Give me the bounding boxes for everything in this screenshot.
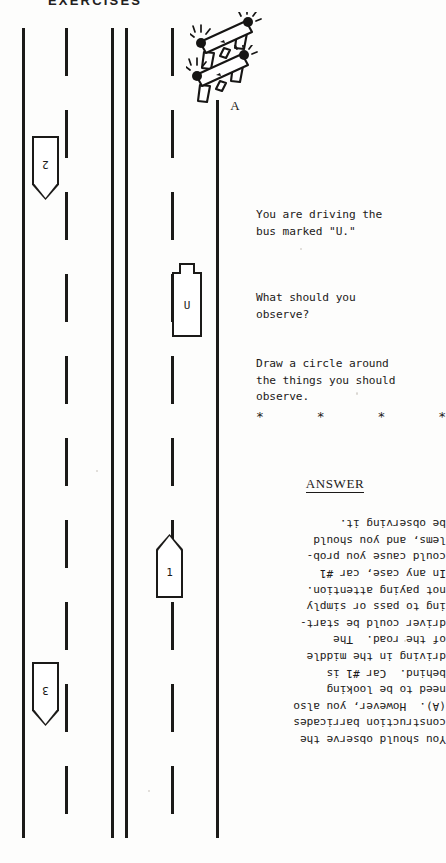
answer-heading-text: ANSWER (306, 476, 365, 493)
separator-star: * (317, 409, 325, 424)
separator-star: * (256, 409, 264, 424)
question-prompt: What should you observe? (256, 290, 356, 323)
barricade-icon (186, 45, 258, 107)
scan-speck (148, 790, 150, 792)
vehicle-label-1: 1 (156, 566, 183, 579)
scan-speck (404, 640, 406, 642)
center-line-left (111, 28, 114, 838)
scan-speck (356, 392, 358, 395)
workbook-page: EXERCISES (0, 0, 446, 863)
vehicle-label-u: U (172, 299, 202, 312)
star-separator: * * * * (256, 409, 446, 424)
vehicle-car-1: 1 (156, 534, 183, 598)
vehicle-car-2: 2 (32, 136, 59, 200)
vehicle-label-2: 2 (32, 158, 59, 171)
bus-hood-joint (181, 271, 193, 275)
barricade-label-a: A (226, 98, 244, 114)
scan-speck (96, 470, 98, 472)
lane-divider-2 (171, 28, 174, 838)
question-instruction: Draw a circle around the things you shou… (256, 356, 395, 406)
center-line-right (125, 28, 128, 838)
vehicle-bus-u: U (172, 263, 202, 337)
exercise-text-column: You are driving the bus marked "U." What… (256, 0, 446, 863)
left-edge-line (22, 28, 25, 838)
lane-divider-1 (65, 28, 68, 838)
separator-star: * (438, 409, 446, 424)
separator-star: * (377, 409, 385, 424)
answer-heading: ANSWER (256, 476, 414, 492)
answer-body-upside-down: You should observe the construction barr… (250, 515, 446, 747)
question-intro: You are driving the bus marked "U." (256, 207, 382, 240)
scan-speck (300, 248, 302, 250)
right-edge-line (216, 100, 219, 838)
vehicle-car-3: 3 (32, 662, 59, 726)
roadway-diagram: A U 1 2 3 (0, 0, 250, 863)
vehicle-label-3: 3 (32, 684, 59, 697)
construction-barricade-lower (186, 45, 258, 111)
